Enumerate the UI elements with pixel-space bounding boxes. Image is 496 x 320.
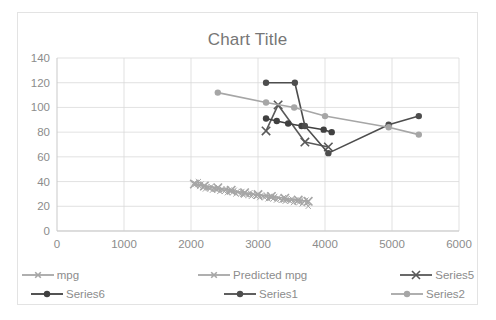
legend-marker-circle-icon xyxy=(390,288,424,300)
y-axis-tick-label: 40 xyxy=(37,176,50,188)
y-axis-tick-label: 80 xyxy=(37,126,50,138)
legend-label: Series5 xyxy=(435,269,474,281)
data-point xyxy=(322,113,328,119)
y-axis-tick-label: 120 xyxy=(31,77,50,89)
plot-area: 0204060801001201400100020003000400050006… xyxy=(18,13,477,304)
y-axis-tick-label: 100 xyxy=(31,101,50,113)
data-point xyxy=(385,124,391,130)
data-point xyxy=(215,89,221,95)
legend-item-series1[interactable]: Series1 xyxy=(223,288,298,300)
legend-marker-x-icon xyxy=(399,269,433,281)
x-axis-tick-label: 2000 xyxy=(178,238,204,250)
y-axis-tick-label: 140 xyxy=(31,52,50,64)
legend-item-predicted-mpg[interactable]: Predicted mpg xyxy=(197,269,307,281)
legend-item-series6[interactable]: Series6 xyxy=(30,288,105,300)
legend-marker-x-small-icon xyxy=(197,269,231,281)
series-line xyxy=(266,83,419,153)
legend-item-series2[interactable]: Series2 xyxy=(390,288,465,300)
legend-item-series5[interactable]: Series5 xyxy=(399,269,474,281)
data-point xyxy=(263,99,269,105)
legend-label: mpg xyxy=(57,269,79,281)
x-axis-tick-label: 4000 xyxy=(312,238,338,250)
data-point xyxy=(285,120,291,126)
data-point xyxy=(274,118,280,124)
data-point xyxy=(416,113,422,119)
x-axis-tick-label: 3000 xyxy=(245,238,271,250)
data-point xyxy=(291,104,297,110)
x-axis-tick-label: 1000 xyxy=(111,238,137,250)
data-point xyxy=(320,126,326,132)
data-point xyxy=(302,123,308,129)
x-axis-tick-label: 6000 xyxy=(446,238,472,250)
series-series2 xyxy=(215,89,422,137)
legend-label: Predicted mpg xyxy=(233,269,307,281)
data-point xyxy=(416,131,422,137)
x-axis-tick-label: 0 xyxy=(54,238,60,250)
chart-container: Chart Title 0204060801001201400100020003… xyxy=(17,12,478,305)
data-point xyxy=(262,127,270,135)
legend-label: Series2 xyxy=(426,288,465,300)
legend-row: mpgPredicted mpgSeries5 xyxy=(18,265,477,284)
data-point xyxy=(329,129,335,135)
legend-marker-x-small-icon xyxy=(21,269,55,281)
legend-label: Series1 xyxy=(259,288,298,300)
chart-legend: mpgPredicted mpgSeries5Series6Series1Ser… xyxy=(18,265,477,303)
data-point xyxy=(292,80,298,86)
x-axis-tick-label: 5000 xyxy=(379,238,405,250)
legend-item-mpg[interactable]: mpg xyxy=(21,269,79,281)
legend-marker-circle-icon xyxy=(30,288,64,300)
y-axis-tick-label: 20 xyxy=(37,200,50,212)
y-axis-tick-label: 0 xyxy=(44,225,50,237)
data-point xyxy=(325,150,331,156)
data-point xyxy=(263,80,269,86)
y-axis-tick-label: 60 xyxy=(37,151,50,163)
legend-marker-circle-icon xyxy=(223,288,257,300)
data-point xyxy=(263,115,269,121)
legend-row: Series6Series1Series2 xyxy=(18,284,477,303)
legend-label: Series6 xyxy=(66,288,105,300)
